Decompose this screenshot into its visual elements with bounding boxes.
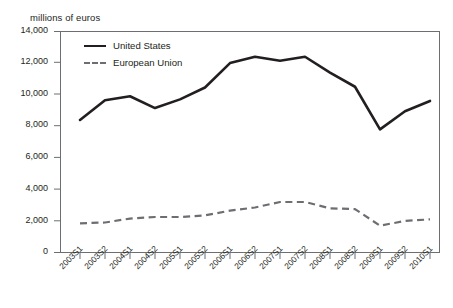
legend-label: European Union (113, 57, 182, 68)
y-tick-label: 8,000 (2, 119, 48, 129)
y-tick-label: 14,000 (2, 25, 48, 35)
legend-label: United States (113, 40, 171, 51)
legend-swatch-solid-line-icon (84, 41, 106, 51)
y-tick-label: 4,000 (2, 183, 48, 193)
line-chart-figure: millions of euros (0, 0, 453, 308)
legend-entry-united-states: United States (84, 38, 182, 53)
chart-legend: United States European Union (84, 38, 182, 72)
y-tick-label: 6,000 (2, 151, 48, 161)
legend-swatch-dashed-line-icon (84, 58, 106, 68)
legend-entry-european-union: European Union (84, 55, 182, 70)
y-axis-ticks (54, 32, 60, 253)
y-tick-label: 0 (2, 246, 48, 256)
y-tick-label: 10,000 (2, 88, 48, 98)
series-line-european-union (80, 202, 430, 226)
y-tick-label: 2,000 (2, 215, 48, 225)
y-tick-label: 12,000 (2, 56, 48, 66)
